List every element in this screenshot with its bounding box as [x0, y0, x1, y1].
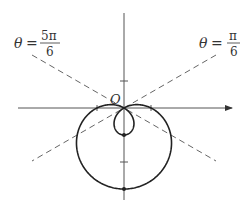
- origin-label: O: [110, 92, 121, 107]
- svg-text:6: 6: [46, 45, 54, 59]
- svg-text:θ: θ: [199, 35, 208, 51]
- svg-text:5π: 5π: [41, 29, 57, 43]
- svg-text:π: π: [229, 29, 237, 43]
- label-theta-5pi-6: θ = 5π 6: [14, 29, 60, 59]
- svg-text:=: =: [26, 35, 38, 51]
- svg-text:=: =: [211, 35, 223, 51]
- polar-graph: O θ = 5π 6 θ = π 6: [0, 0, 245, 202]
- svg-text:6: 6: [230, 45, 238, 59]
- svg-text:θ: θ: [14, 35, 23, 51]
- label-theta-pi-6: θ = π 6: [199, 29, 240, 59]
- inner-loop-point: [122, 133, 126, 137]
- outer-loop-point: [122, 187, 126, 191]
